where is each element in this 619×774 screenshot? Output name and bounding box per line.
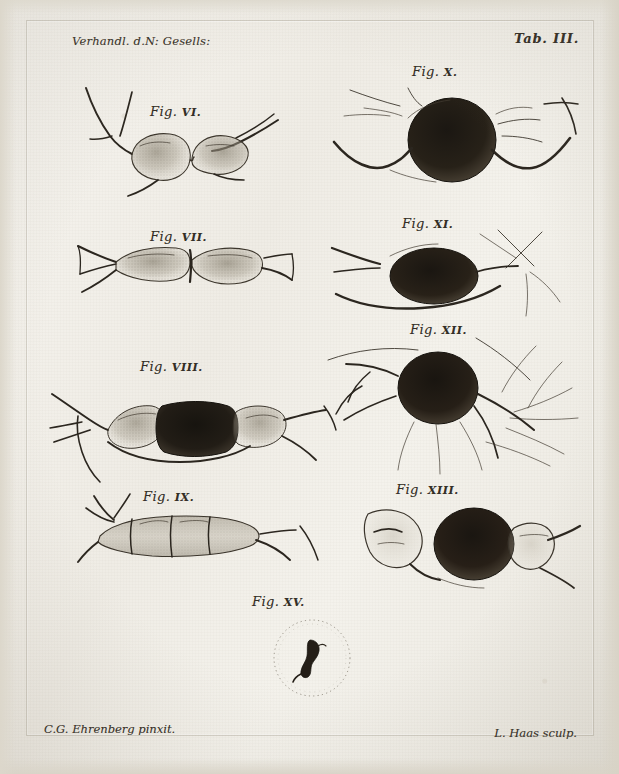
figure-10-fig-word: Fig. — [412, 64, 439, 79]
figure-10-illustration — [330, 80, 580, 200]
engraved-plate: Fig. VI. Fig. VII. Fig. VIII. Fig. IX. F… — [0, 0, 619, 774]
figure-10-numeral: X. — [444, 66, 458, 79]
figure-15-fig-word: Fig. — [252, 594, 279, 609]
figure-12-fig-word: Fig. — [410, 322, 437, 337]
figure-label-15: Fig. XV. — [252, 594, 305, 609]
plate-number-label: Tab. III. — [514, 31, 579, 46]
figure-11-numeral: XI. — [434, 218, 453, 231]
fig-11-drawing — [330, 228, 580, 328]
figure-label-7: Fig. VII. — [150, 229, 207, 244]
figure-15-illustration — [262, 612, 362, 704]
figure-8-fig-word: Fig. — [140, 359, 167, 374]
figure-9-numeral: IX. — [175, 491, 194, 504]
fig-8-drawing — [48, 372, 338, 492]
figure-label-6: Fig. VI. — [150, 104, 201, 119]
fig-6-drawing — [70, 84, 290, 204]
figure-9-illustration — [70, 492, 330, 582]
figure-13-illustration — [352, 492, 582, 602]
figure-label-13: Fig. XIII. — [396, 482, 459, 497]
figure-11-illustration — [330, 228, 580, 328]
figure-13-numeral: XIII. — [428, 484, 459, 497]
fig-12-drawing — [326, 332, 588, 482]
figure-8-numeral: VIII. — [172, 361, 203, 374]
figure-8-illustration — [48, 372, 338, 492]
figure-6-illustration — [70, 84, 290, 204]
fig-15-drawing — [262, 612, 362, 704]
fig-13-drawing — [352, 492, 582, 602]
figure-label-10: Fig. X. — [412, 64, 457, 79]
fig-9-drawing — [70, 492, 330, 582]
figure-12-numeral: XII. — [442, 324, 467, 337]
figure-9-fig-word: Fig. — [143, 489, 170, 504]
plate-header-left: Verhandl. d.N: Gesells: — [72, 34, 210, 48]
figure-6-numeral: VI. — [182, 106, 201, 119]
figure-13-fig-word: Fig. — [396, 482, 423, 497]
figure-6-fig-word: Fig. — [150, 104, 177, 119]
figure-7-fig-word: Fig. — [150, 229, 177, 244]
figure-label-8: Fig. VIII. — [140, 359, 203, 374]
sheet-edge-top — [0, 0, 619, 14]
artist-credit: C.G. Ehrenberg pinxit. — [44, 722, 175, 736]
sheet-edge-left — [0, 0, 16, 774]
figure-15-numeral: XV. — [284, 596, 305, 609]
sheet-edge-right — [601, 0, 619, 774]
figure-label-9: Fig. IX. — [143, 489, 194, 504]
figure-12-illustration — [326, 332, 588, 482]
figure-11-fig-word: Fig. — [402, 216, 429, 231]
sheet-edge-bottom — [0, 758, 619, 774]
figure-7-numeral: VII. — [182, 231, 207, 244]
figure-label-11: Fig. XI. — [402, 216, 453, 231]
figure-label-12: Fig. XII. — [410, 322, 467, 337]
fig-10-drawing — [330, 80, 580, 200]
engraver-credit: L. Haas sculp. — [494, 726, 577, 740]
